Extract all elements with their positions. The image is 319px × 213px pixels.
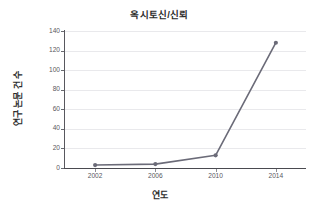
series-line	[95, 43, 276, 165]
data-point-marker	[153, 162, 157, 166]
line-chart: 옥시토신/신뢰 연구 논문 건 수 연도 020406080100120140 …	[0, 0, 319, 213]
data-point-marker	[93, 163, 97, 167]
data-point-marker	[274, 41, 278, 45]
data-point-marker	[214, 153, 218, 157]
data-series-layer	[0, 0, 319, 213]
